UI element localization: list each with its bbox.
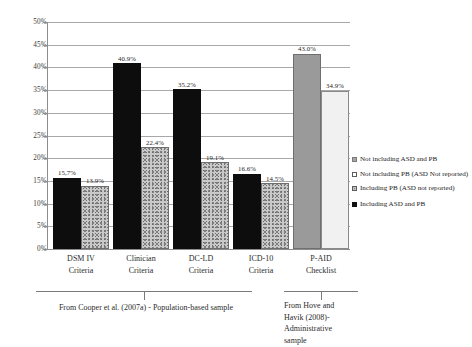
y-tick-label: 30% bbox=[7, 109, 47, 117]
bar-label: 40.9% bbox=[118, 55, 136, 62]
legend-item-not-including-asd-and-pb[interactable]: Not including ASD and PB bbox=[352, 155, 470, 164]
category-line-1: P-AID bbox=[287, 253, 355, 265]
category-label-clinician: Clinician Criteria bbox=[107, 253, 175, 276]
textured-square-icon bbox=[352, 186, 357, 191]
bar-clinician-including-asd-pb[interactable] bbox=[113, 63, 141, 249]
y-tick-label: 5% bbox=[7, 222, 47, 230]
bracket-right-caption: From Hove and Havik (2008)- Administrati… bbox=[284, 300, 360, 346]
category-line-1: DSM IV bbox=[47, 253, 115, 265]
category-line-1: ICD-10 bbox=[227, 253, 295, 265]
x-axis-category-labels: DSM IV Criteria Clinician Criteria DC-LD… bbox=[47, 253, 350, 283]
category-label-dc-ld: DC-LD Criteria bbox=[167, 253, 235, 276]
bracket-right-stem bbox=[321, 291, 322, 300]
bracket-right-line-1: From Hove and bbox=[284, 300, 360, 312]
bracket-right-line-2: Havik (2008)- bbox=[284, 312, 360, 324]
y-tick-label: 35% bbox=[7, 86, 47, 94]
legend-item-including-pb[interactable]: Including PB (ASD not reported) bbox=[352, 184, 470, 193]
legend-item-label: Not including PB (ASD Not reported) bbox=[360, 170, 468, 179]
bar-label: 16.6% bbox=[238, 165, 256, 172]
bar-icd10-including-asd-pb[interactable] bbox=[233, 174, 261, 249]
bracket-left-caption: From Cooper et al. (2007a) - Population-… bbox=[46, 302, 246, 314]
category-label-dsm-iv: DSM IV Criteria bbox=[47, 253, 115, 276]
legend: Not including ASD and PB Not including P… bbox=[352, 155, 470, 214]
bracket-right-line-3: Administrative bbox=[284, 323, 360, 335]
category-line-2: Criteria bbox=[47, 265, 115, 277]
x-axis-baseline bbox=[47, 249, 350, 250]
y-tick-label: 25% bbox=[7, 132, 47, 140]
legend-item-not-including-pb[interactable]: Not including PB (ASD Not reported) bbox=[352, 170, 470, 179]
bar-label: 35.2% bbox=[178, 81, 196, 88]
y-axis: 50% 45% 40% 35% 30% 25% 20% 15% 10% 5% 0… bbox=[0, 0, 47, 347]
y-tick-label: 10% bbox=[7, 200, 47, 208]
bar-label: 22.4% bbox=[146, 139, 164, 146]
bar-label: 19.1% bbox=[206, 154, 224, 161]
grey-square-icon bbox=[352, 157, 357, 162]
bar-paid-not-including-asd-pb[interactable] bbox=[293, 54, 321, 249]
category-label-p-aid: P-AID Checklist bbox=[287, 253, 355, 276]
bar-label: 34.9% bbox=[326, 82, 344, 89]
category-line-2: Criteria bbox=[107, 265, 175, 277]
category-line-2: Criteria bbox=[167, 265, 235, 277]
bar-paid-not-including-pb[interactable] bbox=[321, 91, 349, 249]
category-label-icd-10: ICD-10 Criteria bbox=[227, 253, 295, 276]
white-square-icon bbox=[352, 172, 357, 177]
y-tick-label: 50% bbox=[7, 18, 47, 26]
legend-item-including-asd-and-pb[interactable]: Including ASD and PB bbox=[352, 200, 470, 209]
bar-dcld-including-pb[interactable] bbox=[201, 162, 229, 249]
bracket-right-line-4: sample bbox=[284, 335, 360, 347]
bar-label: 43.0% bbox=[298, 45, 316, 52]
legend-item-label: Including ASD and PB bbox=[360, 200, 425, 209]
bar-dcld-including-asd-pb[interactable] bbox=[173, 89, 201, 249]
category-line-2: Criteria bbox=[227, 265, 295, 277]
bar-label: 15,7% bbox=[58, 169, 76, 176]
y-tick-label: 15% bbox=[7, 177, 47, 185]
bar-dsm-including-asd-pb[interactable] bbox=[53, 178, 81, 249]
category-line-1: DC-LD bbox=[167, 253, 235, 265]
y-tick-label: 0% bbox=[7, 245, 47, 253]
legend-item-label: Including PB (ASD not reported) bbox=[360, 184, 455, 193]
bracket-left-stem bbox=[144, 291, 145, 300]
category-line-2: Checklist bbox=[287, 265, 355, 277]
bar-dsm-including-pb[interactable] bbox=[81, 186, 109, 249]
y-tick-label: 20% bbox=[7, 154, 47, 162]
category-line-1: Clinician bbox=[107, 253, 175, 265]
bar-label: 13.9% bbox=[86, 177, 104, 184]
bar-label: 14.5% bbox=[266, 175, 284, 182]
y-tick-label: 40% bbox=[7, 63, 47, 71]
chart-container: 50% 45% 40% 35% 30% 25% 20% 15% 10% 5% 0… bbox=[0, 0, 472, 347]
bars-layer: 15,7% 13.9% 40.9% 22.4% 35.2% 19.1% 16.6… bbox=[47, 22, 350, 249]
black-square-icon bbox=[352, 202, 357, 207]
bar-clinician-including-pb[interactable] bbox=[141, 147, 169, 249]
bar-icd10-including-pb[interactable] bbox=[261, 183, 289, 249]
y-tick-label: 45% bbox=[7, 41, 47, 49]
legend-item-label: Not including ASD and PB bbox=[360, 155, 437, 164]
